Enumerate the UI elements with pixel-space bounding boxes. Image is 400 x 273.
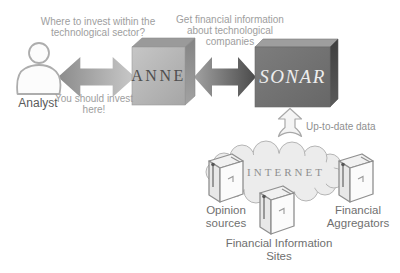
up-arrow-icon: [275, 107, 305, 139]
analyst-question-text: Where to invest within the technological…: [33, 16, 163, 38]
analyst-person-icon: [14, 42, 62, 96]
diagram-canvas: Where to invest within the technological…: [0, 0, 400, 273]
opinion-sources-label: Opinion sources: [192, 204, 260, 230]
server-icon-financial-aggregators: [336, 151, 376, 205]
sonar-request-text: Get financial information about technolo…: [175, 14, 285, 47]
server-icon-opinion-sources: [206, 151, 246, 205]
sonar-label: SONAR: [255, 47, 330, 107]
up-to-date-label: Up-to-date data: [306, 121, 376, 132]
double-arrow-anne-sonar-icon: [194, 57, 256, 97]
server-icon-financial-information-sites: [257, 183, 297, 237]
financial-aggregators-label: Financial Aggregators: [322, 204, 394, 230]
internet-label: INTERNET: [230, 166, 342, 178]
anne-answer-text: You should invest here!: [48, 93, 140, 115]
financial-information-sites-label: Financial Information Sites: [215, 237, 343, 263]
double-arrow-analyst-anne-icon: [58, 57, 135, 97]
